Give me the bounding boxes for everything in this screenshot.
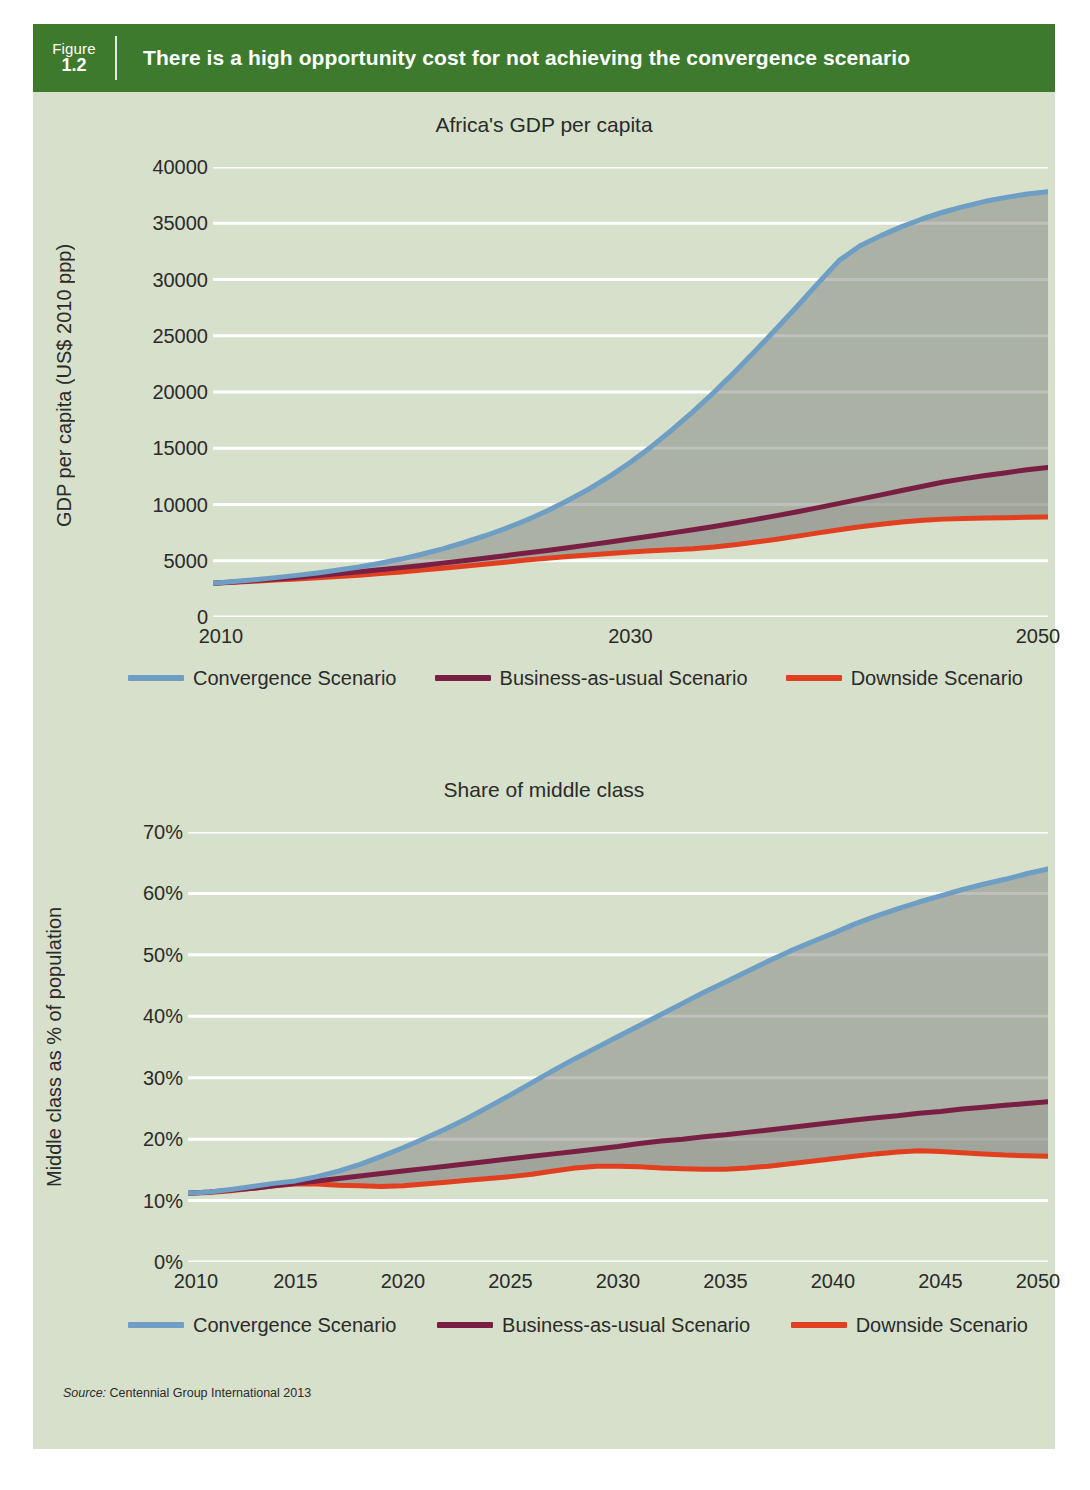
legend-swatch-icon: [435, 675, 491, 681]
legend-swatch-icon: [786, 675, 842, 681]
plot-svg-gdp: [213, 167, 1048, 617]
legend-label: Business-as-usual Scenario: [500, 667, 748, 690]
y-tick-label: 60%: [68, 882, 183, 905]
y-tick-label: 30%: [68, 1066, 183, 1089]
y-axis-label-middle-class: Middle class as % of population: [41, 832, 67, 1262]
x-axis-ticks-gdp: 201020302050: [213, 625, 1048, 655]
figure-number-block: Figure 1.2: [33, 24, 115, 92]
y-tick-label: 35000: [78, 212, 208, 235]
legend-label: Downside Scenario: [851, 667, 1023, 690]
plot-area-middle-class: [188, 832, 1048, 1262]
legend-gdp: Convergence ScenarioBusiness-as-usual Sc…: [128, 663, 1023, 693]
chart-gdp-per-capita: Africa's GDP per capita GDP per capita (…: [33, 105, 1055, 705]
y-tick-label: 15000: [78, 437, 208, 460]
y-tick-label: 10000: [78, 493, 208, 516]
legend-item-business_as_usual[interactable]: Business-as-usual Scenario: [437, 1314, 750, 1337]
legend-label: Downside Scenario: [856, 1314, 1028, 1337]
source-prefix: Source:: [63, 1386, 106, 1400]
y-tick-label: 70%: [68, 821, 183, 844]
y-axis-ticks-middle-class: 0%10%20%30%40%50%60%70%: [68, 770, 183, 1370]
x-tick-label: 2050: [1016, 625, 1061, 648]
plot-area-gdp: [213, 167, 1048, 617]
figure-label-word: Figure: [52, 41, 96, 57]
x-tick-label: 2030: [596, 1270, 641, 1293]
legend-middle-class: Convergence ScenarioBusiness-as-usual Sc…: [128, 1310, 1028, 1340]
x-tick-label: 2010: [199, 625, 244, 648]
legend-item-convergence[interactable]: Convergence Scenario: [128, 1314, 396, 1337]
legend-item-business_as_usual[interactable]: Business-as-usual Scenario: [435, 667, 748, 690]
chart-title-middle-class: Share of middle class: [33, 778, 1055, 802]
figure-page: Figure 1.2 There is a high opportunity c…: [0, 0, 1090, 1490]
legend-swatch-icon: [437, 1322, 493, 1328]
y-axis-label-gdp: GDP per capita (US$ 2010 ppp): [51, 175, 77, 595]
x-tick-label: 2050: [1016, 1270, 1061, 1293]
legend-label: Convergence Scenario: [193, 1314, 396, 1337]
source-note: Source: Centennial Group International 2…: [63, 1386, 311, 1400]
legend-item-convergence[interactable]: Convergence Scenario: [128, 667, 396, 690]
y-tick-label: 25000: [78, 324, 208, 347]
figure-number: 1.2: [61, 56, 86, 75]
x-tick-label: 2020: [381, 1270, 426, 1293]
y-tick-label: 0%: [68, 1251, 183, 1274]
y-tick-label: 5000: [78, 549, 208, 572]
y-tick-label: 10%: [68, 1189, 183, 1212]
legend-swatch-icon: [128, 1322, 184, 1328]
x-tick-label: 2030: [608, 625, 653, 648]
source-text: Centennial Group International 2013: [110, 1386, 312, 1400]
x-tick-label: 2010: [174, 1270, 219, 1293]
legend-item-downside[interactable]: Downside Scenario: [791, 1314, 1028, 1337]
legend-label: Business-as-usual Scenario: [502, 1314, 750, 1337]
y-tick-label: 40%: [68, 1005, 183, 1028]
figure-title-bar: Figure 1.2 There is a high opportunity c…: [33, 24, 1055, 92]
y-tick-label: 50%: [68, 943, 183, 966]
figure-title: There is a high opportunity cost for not…: [117, 24, 1055, 92]
legend-item-downside[interactable]: Downside Scenario: [786, 667, 1023, 690]
x-tick-label: 2040: [811, 1270, 856, 1293]
y-tick-label: 20000: [78, 381, 208, 404]
x-tick-label: 2035: [703, 1270, 748, 1293]
x-tick-label: 2015: [273, 1270, 318, 1293]
legend-swatch-icon: [791, 1322, 847, 1328]
y-tick-label: 40000: [78, 156, 208, 179]
y-tick-label: 20%: [68, 1128, 183, 1151]
title-divider: [115, 36, 117, 80]
x-tick-label: 2025: [488, 1270, 533, 1293]
y-axis-ticks-gdp: 0500010000150002000025000300003500040000: [78, 105, 208, 705]
legend-swatch-icon: [128, 675, 184, 681]
x-tick-label: 2045: [918, 1270, 963, 1293]
chart-share-of-middle-class: Share of middle class Middle class as % …: [33, 770, 1055, 1370]
y-tick-label: 30000: [78, 268, 208, 291]
y-tick-label: 0: [78, 606, 208, 629]
x-axis-ticks-middle-class: 201020152020202520302035204020452050: [188, 1270, 1048, 1300]
legend-label: Convergence Scenario: [193, 667, 396, 690]
plot-svg-middle-class: [188, 832, 1048, 1262]
